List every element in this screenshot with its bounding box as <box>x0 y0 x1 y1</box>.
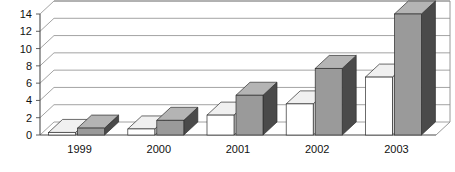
y-axis-tick-label: 0 <box>26 129 32 141</box>
y-axis-tick-label: 8 <box>26 60 32 72</box>
y-axis-tick-label: 12 <box>20 25 32 37</box>
y-axis-tick-label: 2 <box>26 112 32 124</box>
x-axis-tick-label-2003: 2003 <box>384 143 408 155</box>
x-axis-tick-label-1999: 1999 <box>67 143 91 155</box>
y-axis-tick-label: 14 <box>20 8 32 20</box>
y-axis-tick-label: 4 <box>26 94 32 106</box>
x-axis-tick-label-2001: 2001 <box>226 143 250 155</box>
x-axis-tick-label-2000: 2000 <box>147 143 171 155</box>
y-axis-tick-label: 10 <box>20 43 32 55</box>
y-axis-tick-label: 6 <box>26 77 32 89</box>
bar-2001-series-2 <box>236 82 277 135</box>
bar-2003-series-2 <box>394 1 435 135</box>
bar-2002-series-2 <box>315 55 356 135</box>
bar-chart-3d: 0246810121419992000200120022003 <box>0 0 455 172</box>
x-axis-tick-label-2002: 2002 <box>305 143 329 155</box>
chart-container: 0246810121419992000200120022003 <box>0 0 455 172</box>
